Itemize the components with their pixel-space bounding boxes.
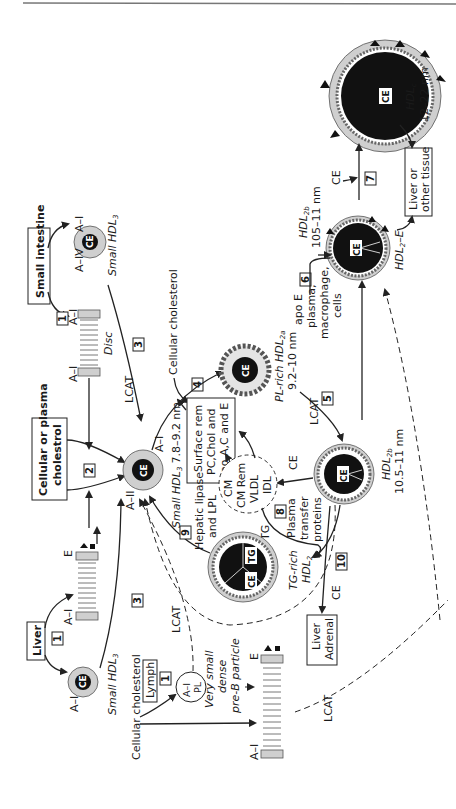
svg-text:VLDL: VLDL bbox=[248, 474, 261, 503]
svg-text:A–I: A–I bbox=[153, 436, 166, 452]
svg-text:macrophage,: macrophage, bbox=[318, 267, 331, 339]
svg-text:TG: TG bbox=[247, 549, 257, 563]
particle-hdl2b-mid: CE HDL2b 10.5–11 nm bbox=[314, 429, 406, 504]
hdl2b-upper-label: HDL bbox=[297, 215, 310, 238]
svg-text:Lymph: Lymph bbox=[144, 662, 157, 698]
hdl2b-upper-size: 105–11 nm bbox=[310, 186, 323, 248]
particle-disc-intestine: A–I A–I Disc bbox=[67, 309, 115, 382]
particle-hdl2e: CE HDL2–E bbox=[326, 216, 407, 280]
lcat-label-5: LCAT bbox=[308, 398, 321, 425]
svg-text:HDL2b: HDL2b bbox=[297, 206, 311, 238]
particle-hdlc: CE HDLc 12–22 nm bbox=[320, 40, 446, 152]
cellular-cholesterol-top: Cellular cholesterol bbox=[167, 269, 180, 375]
svg-text:transfer: transfer bbox=[298, 496, 311, 540]
ce-label-7: CE bbox=[330, 170, 343, 185]
svg-text:TG-rich: TG-rich bbox=[287, 550, 300, 590]
svg-text:Surface rem: Surface rem bbox=[192, 405, 205, 472]
remnants-circle: CM CM Rem VLDL IDL bbox=[219, 455, 277, 513]
svg-text:CE: CE bbox=[241, 364, 251, 377]
svg-text:CE: CE bbox=[339, 469, 349, 482]
svg-text:Liver: Liver bbox=[31, 625, 44, 656]
small-intestine-box: Small intestine bbox=[28, 205, 50, 304]
hdlc-core-label: CE bbox=[381, 90, 391, 103]
step-3-lower: 3 bbox=[132, 597, 143, 604]
svg-text:IDL: IDL bbox=[261, 475, 274, 494]
particle-pl-rich-hdl2a: CE PL-rich HDL2a 9.2–10 nm bbox=[221, 330, 299, 402]
particle-small-hdl3-intestine: CE A–IV A–I Small HDL3 bbox=[73, 215, 120, 276]
svg-text:E: E bbox=[248, 653, 261, 660]
step-2: 2 bbox=[84, 467, 95, 474]
step-1-lymph: 1 bbox=[160, 675, 171, 682]
svg-text:and LPL: and LPL bbox=[206, 494, 219, 538]
svg-text:CE: CE bbox=[352, 243, 362, 256]
step-5: 5 bbox=[322, 395, 333, 402]
svg-text:HDL2–E: HDL2–E bbox=[393, 230, 407, 270]
svg-text:HDLc: HDLc bbox=[404, 83, 418, 110]
svg-text:Liver: Liver bbox=[310, 623, 323, 650]
svg-text:CM Rem: CM Rem bbox=[235, 463, 248, 508]
svg-text:CE: CE bbox=[139, 464, 149, 477]
svg-text:Small HDL37.8–9.2 nm: Small HDL37.8–9.2 nm bbox=[170, 402, 184, 528]
svg-text:CM: CM bbox=[222, 480, 235, 497]
svg-text:CE: CE bbox=[85, 235, 95, 248]
svg-text:A–I: A–I bbox=[248, 744, 261, 760]
svg-text:PL-rich HDL2a: PL-rich HDL2a bbox=[273, 330, 287, 402]
svg-text:Disc: Disc bbox=[102, 332, 115, 355]
svg-text:10.5–11 nm: 10.5–11 nm bbox=[393, 429, 406, 494]
svg-text:A–II: A–II bbox=[124, 490, 137, 510]
lcat-label-upper: LCAT bbox=[123, 376, 136, 403]
svg-text:PC,Chol and: PC,Chol and bbox=[205, 409, 218, 475]
svg-text:9.2–10 nm: 9.2–10 nm bbox=[286, 332, 299, 390]
cellular-plasma-cholestrol-box: Cellular or plasma cholestrol bbox=[32, 383, 67, 500]
svg-text:proteins: proteins bbox=[311, 497, 324, 542]
particle-central-small-hdl3: CE A–I A–II Small HDL37.8–9.2 nm bbox=[123, 402, 184, 528]
svg-text:A–I: A–I bbox=[73, 216, 86, 232]
svg-text:CE: CE bbox=[78, 675, 88, 688]
svg-text:A–I: A–I bbox=[67, 366, 80, 382]
apoe-label: apo E bbox=[292, 294, 305, 325]
step-7: 7 bbox=[365, 175, 376, 182]
hdlc-size: 12–22 nm bbox=[418, 67, 431, 122]
lcat-label-lower: LCAT bbox=[170, 606, 183, 633]
ce-label-remnant: CE bbox=[287, 455, 300, 470]
svg-text:cholestrol: cholestrol bbox=[51, 424, 64, 486]
hdl-metabolism-figure: CE HDLc 12–22 nm Liver or other tissue C… bbox=[0, 0, 456, 809]
svg-text:plasma,: plasma, bbox=[305, 285, 318, 328]
plasma-transfer-label: Plasma bbox=[285, 498, 298, 538]
svg-text:Adrenal: Adrenal bbox=[323, 618, 336, 660]
particle-small-hdl3-liver: CE A–I Small HDL3 bbox=[68, 654, 120, 715]
lymph-box: Lymph bbox=[143, 660, 157, 702]
svg-text:Cellular or plasma: Cellular or plasma bbox=[37, 383, 50, 496]
svg-text:A–IV: A–IV bbox=[73, 248, 86, 272]
particle-tg-rich-hdl2: TG CE TG-rich HDL2 bbox=[208, 532, 314, 602]
svg-text:A–I: A–I bbox=[67, 309, 80, 325]
liver-box: Liver bbox=[27, 622, 45, 660]
cellular-cholesterol-bottom: Cellular cholesterol bbox=[130, 654, 143, 760]
svg-text:pre-B particle: pre-B particle bbox=[229, 638, 242, 714]
pre-b-label: Very small bbox=[203, 651, 216, 708]
svg-text:A–I: A–I bbox=[181, 683, 192, 697]
hdlc-label: HDL bbox=[404, 87, 417, 110]
particle-lymph-a1-pl: A–I PL bbox=[176, 672, 206, 702]
svg-text:A–I: A–I bbox=[62, 609, 75, 625]
svg-text:CE: CE bbox=[247, 575, 257, 588]
svg-text:HDL2b: HDL2b bbox=[380, 448, 394, 480]
hepatic-lipase-label: Hepatic lipase bbox=[193, 472, 206, 550]
step-3-upper: 3 bbox=[133, 341, 144, 348]
top-rule bbox=[23, 3, 456, 4]
svg-text:Small HDL3: Small HDL3 bbox=[106, 654, 120, 715]
svg-text:cells: cells bbox=[331, 293, 344, 318]
particle-disc-liver: E A–I bbox=[62, 543, 98, 625]
svg-text:HDL2: HDL2 bbox=[300, 555, 314, 583]
lcat-label-bottom: LCAT bbox=[322, 695, 335, 722]
svg-text:E: E bbox=[62, 550, 75, 557]
liver-adrenal-box: Liver Adrenal bbox=[307, 615, 337, 665]
svg-text:other tissue: other tissue bbox=[419, 146, 432, 212]
step-10: 10 bbox=[336, 554, 347, 568]
particle-disc-lower: E A–I bbox=[248, 645, 283, 760]
svg-text:Small HDL3: Small HDL3 bbox=[106, 215, 120, 276]
svg-text:PL: PL bbox=[192, 681, 203, 693]
svg-text:Small intestine: Small intestine bbox=[34, 205, 47, 298]
liver-other-tissue-box: Liver or other tissue bbox=[405, 146, 432, 216]
step-9: 9 bbox=[180, 529, 191, 536]
